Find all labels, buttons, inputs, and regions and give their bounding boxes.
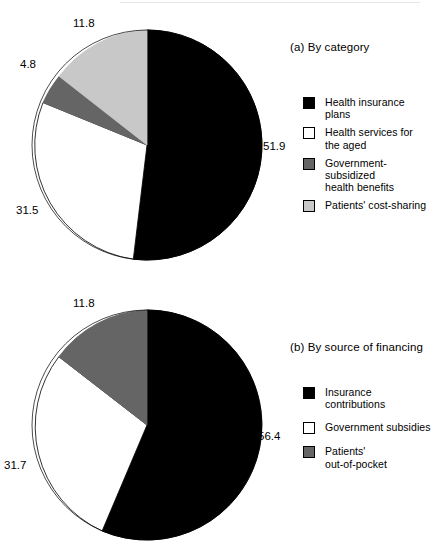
pie-chart-a <box>30 28 264 262</box>
legend-item-patients-cost-sharing[interactable]: Patients' cost-sharing <box>303 199 439 212</box>
panel-b-title: (b) By source of financing <box>290 341 423 353</box>
pie-a-value-label-health-services-aged: 31.5 <box>16 204 38 216</box>
legend-label-patients-cost-sharing: Patients' cost-sharing <box>325 199 426 211</box>
legend-label-health-insurance-plans: Health insurance plans <box>325 96 405 120</box>
pie-a-value-label-cost-sharing: 11.8 <box>73 17 95 29</box>
legend-swatch-white-icon <box>303 127 315 139</box>
legend-swatch-light-gray-icon <box>303 200 315 212</box>
legend-swatch-dark-gray-icon <box>303 158 315 170</box>
legend-item-government-subsidies[interactable]: Government subsidies <box>303 421 439 434</box>
legend-item-health-insurance-plans[interactable]: Health insurance plans <box>303 96 439 120</box>
pie-b-value-label-out-of-pocket: 11.8 <box>73 297 95 309</box>
legend-item-health-services-aged[interactable]: Health services for the aged <box>303 126 439 150</box>
legend-item-patients-out-of-pocket[interactable]: Patients' out-of-pocket <box>303 445 439 469</box>
legend-label-government-subsidized: Government- subsidized health benefits <box>325 157 394 194</box>
pie-b-value-label-insurance-contributions: 56.4 <box>258 430 280 442</box>
pie-chart-a-svg <box>30 28 264 262</box>
figure-two-pie-charts: (a) By category 11.8 4.8 31.5 51.9 Healt… <box>0 0 439 553</box>
panel-a-title: (a) By category <box>290 41 369 53</box>
pie-b-value-label-government-subsidies: 31.7 <box>4 459 26 471</box>
legend-panel-b: Insurance contributions Government subsi… <box>303 386 439 476</box>
legend-swatch-white-icon <box>303 422 315 434</box>
legend-swatch-black-icon <box>303 387 315 399</box>
pie-a-value-label-government-subsidized: 4.8 <box>20 58 36 70</box>
legend-label-government-subsidies: Government subsidies <box>325 421 430 433</box>
legend-label-patients-out-of-pocket: Patients' out-of-pocket <box>325 445 387 469</box>
pie-slice-a-health-insurance-plans <box>133 30 262 260</box>
pie-chart-b-svg <box>30 308 264 542</box>
legend-swatch-black-icon <box>303 97 315 109</box>
pie-a-value-label-health-insurance: 51.9 <box>263 140 285 152</box>
legend-label-health-services-aged: Health services for the aged <box>325 126 413 150</box>
panel-by-category: (a) By category 11.8 4.8 31.5 51.9 Healt… <box>0 0 439 285</box>
panel-by-source-of-financing: (b) By source of financing 11.8 31.7 56.… <box>0 285 439 553</box>
legend-swatch-dark-gray-icon <box>303 446 315 458</box>
legend-item-insurance-contributions[interactable]: Insurance contributions <box>303 386 439 410</box>
legend-item-government-subsidized[interactable]: Government- subsidized health benefits <box>303 157 439 194</box>
pie-chart-b <box>30 308 264 542</box>
legend-label-insurance-contributions: Insurance contributions <box>325 386 385 410</box>
legend-panel-a: Health insurance plans Health services f… <box>303 96 439 218</box>
